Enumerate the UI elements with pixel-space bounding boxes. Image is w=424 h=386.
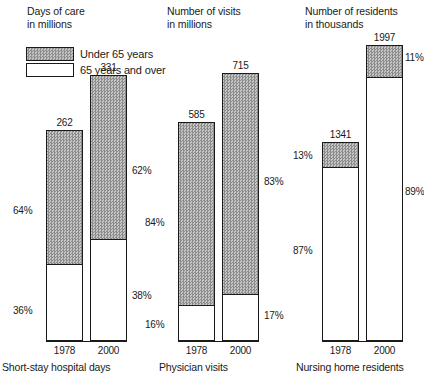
pct-65-and-over-hospital-1978: 36% xyxy=(13,305,32,316)
segment-65-and-over xyxy=(91,239,126,340)
legend-swatch-under-65-icon xyxy=(26,47,74,61)
year-label-hospital-1978: 1978 xyxy=(44,345,85,356)
legend-label-under-65: Under 65 years xyxy=(80,48,153,60)
pct-65-and-over-hospital-2000: 38% xyxy=(132,290,151,301)
pct-under-65-physician-2000: 83% xyxy=(264,176,283,187)
year-label-nursing-2000: 2000 xyxy=(364,345,405,356)
panel-3-caption: Nursing home residents xyxy=(296,361,404,373)
panel-1-caption: Short-stay hospital days xyxy=(2,361,110,373)
segment-under-65 xyxy=(223,74,258,296)
segment-65-and-over xyxy=(179,305,214,340)
bar-hospital-1978 xyxy=(46,130,83,341)
bar-hospital-2000 xyxy=(90,75,127,341)
segment-under-65 xyxy=(179,123,214,307)
bar-nursing-2000 xyxy=(366,45,403,341)
pct-65-and-over-physician-2000: 17% xyxy=(264,310,283,321)
axis-line-panel-1 xyxy=(46,341,127,342)
segment-65-and-over xyxy=(223,294,258,340)
pct-under-65-nursing-1978: 13% xyxy=(293,150,312,161)
pct-under-65-nursing-2000: 11% xyxy=(405,52,424,63)
segment-under-65 xyxy=(91,76,126,241)
pct-65-and-over-physician-1978: 16% xyxy=(145,319,164,330)
bar-physician-1978 xyxy=(178,122,215,341)
segment-65-and-over xyxy=(367,77,402,340)
pct-under-65-hospital-2000: 62% xyxy=(132,165,151,176)
chart-figure: Days of care in millions Under 65 years … xyxy=(0,0,424,386)
bar-value-physician-1978: 585 xyxy=(178,109,215,120)
pct-under-65-hospital-1978: 64% xyxy=(13,205,32,216)
pct-65-and-over-nursing-2000: 89% xyxy=(405,186,424,197)
pct-under-65-physician-1978: 84% xyxy=(145,217,164,228)
bar-nursing-1978 xyxy=(322,142,359,341)
bar-value-physician-2000: 715 xyxy=(222,60,259,71)
segment-65-and-over xyxy=(323,167,358,340)
segment-65-and-over xyxy=(47,264,82,340)
segment-under-65 xyxy=(367,46,402,79)
axis-line-panel-2 xyxy=(178,341,259,342)
year-label-hospital-2000: 2000 xyxy=(88,345,129,356)
year-label-nursing-1978: 1978 xyxy=(320,345,361,356)
bar-value-nursing-2000: 1997 xyxy=(366,32,403,43)
bar-value-hospital-2000: 331 xyxy=(90,62,127,73)
axis-line-panel-3 xyxy=(322,341,403,342)
panel-1-title: Days of care in millions xyxy=(27,5,85,30)
panel-2-title: Number of visits in millions xyxy=(167,5,241,30)
panel-2-caption: Physician visits xyxy=(159,361,228,373)
segment-under-65 xyxy=(323,143,358,169)
bar-value-hospital-1978: 262 xyxy=(46,117,83,128)
legend-item-under-65: Under 65 years xyxy=(26,46,166,61)
bar-physician-2000 xyxy=(222,73,259,341)
panel-3-title: Number of residents in thousands xyxy=(305,5,398,30)
bar-value-nursing-1978: 1341 xyxy=(322,129,359,140)
pct-65-and-over-nursing-1978: 87% xyxy=(293,245,312,256)
year-label-physician-1978: 1978 xyxy=(176,345,217,356)
legend-swatch-65-and-over-icon xyxy=(26,63,74,77)
year-label-physician-2000: 2000 xyxy=(220,345,261,356)
segment-under-65 xyxy=(47,131,82,266)
